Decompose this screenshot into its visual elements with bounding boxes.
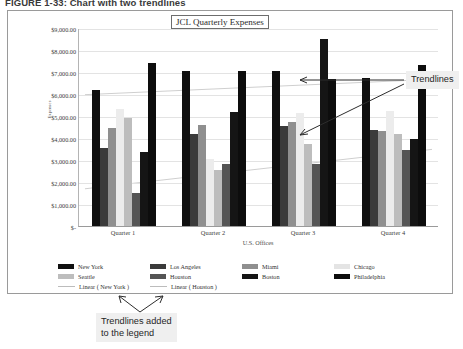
legend-label: Houston xyxy=(170,273,191,280)
y-tick-label: $8,000.00 xyxy=(51,48,76,55)
bar[interactable] xyxy=(132,193,140,226)
bar-group xyxy=(79,29,169,226)
legend-color-swatch xyxy=(242,274,258,279)
legend-color-swatch xyxy=(242,264,258,269)
callout-trendlines: Trendlines xyxy=(406,71,459,89)
bar[interactable] xyxy=(312,164,320,226)
bar[interactable] xyxy=(206,159,214,226)
arrow-legend-right-head xyxy=(155,296,163,303)
x-tick-label: Quarter 4 xyxy=(381,229,405,236)
y-tick-label: $4,000.00 xyxy=(51,136,76,143)
bar[interactable] xyxy=(100,148,108,226)
x-tick-label: Quarter 2 xyxy=(201,229,225,236)
y-tick-label: $3,000.00 xyxy=(51,158,76,165)
legend-label: Boston xyxy=(262,273,280,280)
bar[interactable] xyxy=(386,111,394,227)
y-tick-label: $6,000.00 xyxy=(51,92,76,99)
bar[interactable] xyxy=(148,63,156,226)
bar[interactable] xyxy=(362,78,370,227)
bar[interactable] xyxy=(214,170,222,226)
legend-color-swatch xyxy=(150,274,166,279)
legend-row: New YorkLos AngelesMiamiChicago xyxy=(58,263,438,273)
bar[interactable] xyxy=(296,113,304,226)
legend-label: Miami xyxy=(262,263,279,270)
figure-caption: FIGURE 1-33: Chart with two trendlines xyxy=(5,0,186,8)
bar-group xyxy=(259,29,349,226)
legend-label: Los Angeles xyxy=(170,263,201,270)
chart-legend: New YorkLos AngelesMiamiChicagoSeattleHo… xyxy=(58,263,438,293)
legend-line-swatch xyxy=(150,286,167,287)
y-tick-label: $5,000.00 xyxy=(51,114,76,121)
x-axis-title: U.S. Offices xyxy=(78,239,438,246)
bar[interactable] xyxy=(418,65,426,226)
bar[interactable] xyxy=(402,150,410,226)
legend-line-swatch xyxy=(58,286,75,287)
bar[interactable] xyxy=(320,39,328,226)
bar[interactable] xyxy=(222,164,230,226)
y-tick-label: $- xyxy=(71,224,76,231)
bar[interactable] xyxy=(272,71,280,226)
arrow-legend-left-head xyxy=(119,296,126,303)
y-tick-label: $9,000.00 xyxy=(51,26,76,33)
bar[interactable] xyxy=(124,118,132,226)
y-axis-tick-labels: $9,000.00$8,000.00$7,000.00$6,000.00$5,0… xyxy=(30,29,76,235)
legend-item[interactable]: Linear ( Houston ) xyxy=(150,283,217,290)
y-tick-label: $2,000.00 xyxy=(51,180,76,187)
chart-frame: JCL Quarterly Expenses Expenses $9,000.0… xyxy=(7,10,453,294)
x-tick-label: Quarter 1 xyxy=(111,229,135,236)
legend-row: SeattleHoustonBostonPhiladelphia xyxy=(58,273,438,283)
legend-color-swatch xyxy=(150,264,166,269)
plot-area-wrapper: Expenses $9,000.00$8,000.00$7,000.00$6,0… xyxy=(22,29,440,235)
chart-title: JCL Quarterly Expenses xyxy=(171,15,269,29)
legend-label: Linear ( Houston ) xyxy=(171,283,217,290)
bar[interactable] xyxy=(182,71,190,226)
bar[interactable] xyxy=(288,122,296,227)
bar[interactable] xyxy=(394,134,402,226)
bar[interactable] xyxy=(190,134,198,226)
legend-row: Linear ( New York )Linear ( Houston ) xyxy=(58,283,438,293)
bar-group xyxy=(169,29,259,226)
legend-item[interactable]: Linear ( New York ) xyxy=(58,283,129,290)
legend-color-swatch xyxy=(58,274,74,279)
arrow-legend-right xyxy=(140,296,163,312)
bar[interactable] xyxy=(116,109,124,226)
legend-label: New York xyxy=(78,263,103,270)
legend-item[interactable]: New York xyxy=(58,263,103,270)
legend-item[interactable]: Houston xyxy=(150,273,191,280)
arrow-legend-left xyxy=(119,296,140,312)
bar[interactable] xyxy=(280,126,288,226)
bar[interactable] xyxy=(92,90,100,226)
legend-label: Seattle xyxy=(78,273,95,280)
legend-label: Chicago xyxy=(354,263,375,270)
legend-item[interactable]: Boston xyxy=(242,273,280,280)
plot-area xyxy=(78,29,438,227)
legend-color-swatch xyxy=(334,264,350,269)
legend-item[interactable]: Los Angeles xyxy=(150,263,201,270)
bar[interactable] xyxy=(328,79,336,226)
bar[interactable] xyxy=(140,152,148,226)
legend-item[interactable]: Miami xyxy=(242,263,279,270)
bar[interactable] xyxy=(238,71,246,226)
bar[interactable] xyxy=(378,131,386,226)
legend-label: Philadelphia xyxy=(354,273,385,280)
bar[interactable] xyxy=(198,125,206,226)
y-tick-label: $7,000.00 xyxy=(51,70,76,77)
y-tick-label: $1,000.00 xyxy=(51,202,76,209)
bar[interactable] xyxy=(304,144,312,227)
legend-label: Linear ( New York ) xyxy=(79,283,129,290)
callout-legend-note: Trendlines added to the legend xyxy=(96,313,177,342)
legend-color-swatch xyxy=(334,274,350,279)
legend-item[interactable]: Seattle xyxy=(58,273,95,280)
bar-group xyxy=(349,29,439,226)
legend-item[interactable]: Chicago xyxy=(334,263,375,270)
bar[interactable] xyxy=(230,112,238,226)
x-tick-label: Quarter 3 xyxy=(291,229,315,236)
bar[interactable] xyxy=(410,139,418,226)
bar[interactable] xyxy=(108,128,116,226)
legend-item[interactable]: Philadelphia xyxy=(334,273,385,280)
legend-color-swatch xyxy=(58,264,74,269)
bar[interactable] xyxy=(370,130,378,226)
